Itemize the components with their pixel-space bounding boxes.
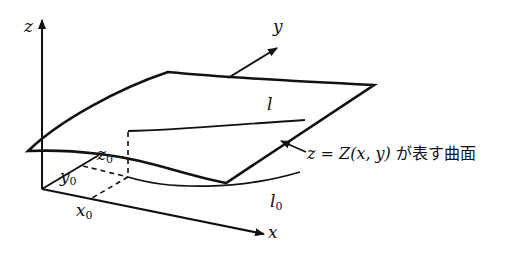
dashed-x0-line bbox=[92, 177, 128, 198]
surface-caption: z = Z(x, y) が表す曲面 bbox=[307, 146, 476, 162]
z-axis-label: z bbox=[24, 18, 33, 35]
curve-l-label: l bbox=[267, 96, 272, 113]
dashed-y0-line bbox=[83, 166, 128, 177]
y-axis-label: y bbox=[273, 18, 283, 35]
curve-l bbox=[128, 120, 305, 131]
z0-label: z0 bbox=[97, 146, 113, 165]
surface-pointer-arrow bbox=[281, 141, 306, 152]
y-axis-upper bbox=[228, 48, 277, 78]
curve-l0-label: l0 bbox=[270, 193, 282, 212]
x0-label: x0 bbox=[76, 202, 93, 221]
surface-diagram: z y x y0 z0 x0 l l0 z = Z(x, y) が表す曲面 bbox=[0, 0, 529, 258]
x-axis-label: x bbox=[268, 224, 278, 241]
y0-label: y0 bbox=[60, 168, 77, 187]
